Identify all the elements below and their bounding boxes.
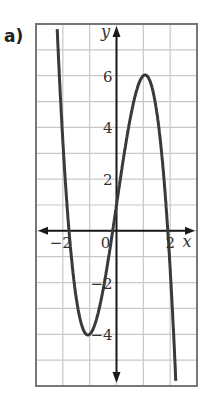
y-tick-label: 4 [103,119,113,137]
origin-label: 0 [101,234,111,252]
x-tick-label: −2 [50,234,72,252]
y-axis-down-arrow-icon [113,372,121,383]
y-axis-up-arrow-icon [113,26,121,37]
x-axis-left-arrow-icon [38,227,48,235]
y-tick-label: −2 [90,275,112,293]
x-axis-label: x [182,232,191,251]
y-axis-label: y [100,22,111,41]
x-tick-label: 2 [165,234,175,252]
cubic-graph: −22642−2−40xy [0,0,210,400]
y-tick-label: 2 [103,171,113,189]
y-tick-label: −4 [90,326,112,344]
y-tick-label: 6 [103,68,113,86]
